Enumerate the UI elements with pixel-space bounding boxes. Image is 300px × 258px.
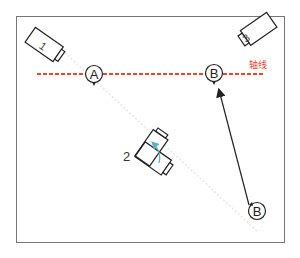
camera-2-label: 2	[123, 149, 130, 164]
subject-b-top-label: B	[210, 66, 219, 81]
axis-label: 轴线	[249, 59, 267, 70]
subject-b-bottom-label: B	[253, 204, 262, 219]
subject-a-label: A	[90, 67, 99, 82]
movement-arrow	[219, 90, 249, 205]
camera-3	[236, 12, 277, 48]
camera-axis-diagram: 1 3 2 A B B 轴线	[0, 0, 300, 258]
